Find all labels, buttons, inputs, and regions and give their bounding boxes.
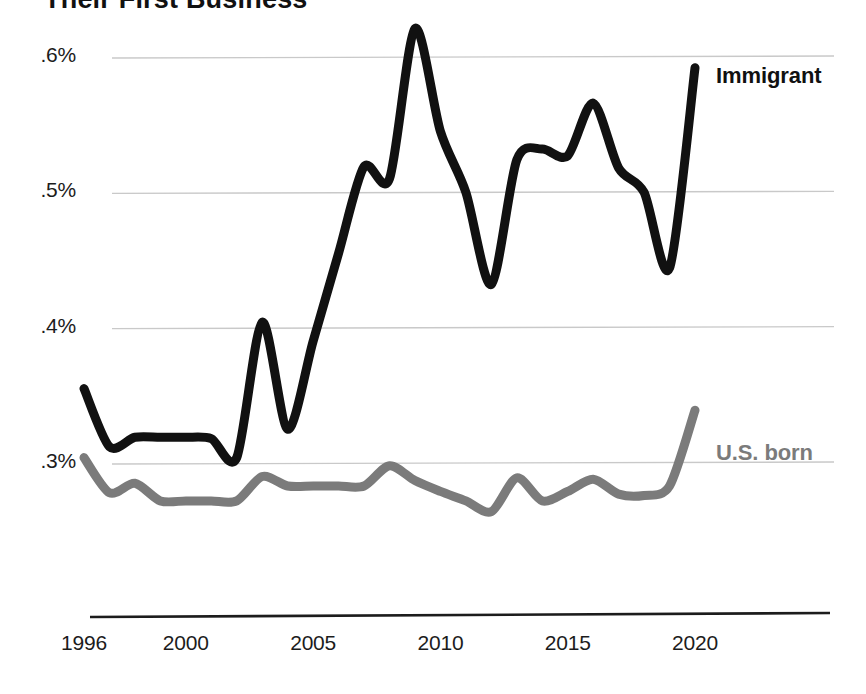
chart-plot-area — [0, 0, 866, 694]
y-axis-tick-label: .4% — [14, 314, 76, 338]
x-axis-tick-label: 2000 — [163, 631, 209, 655]
series-label-immigrant: Immigrant — [716, 63, 821, 89]
gridline — [112, 56, 834, 58]
line-series-immigrant — [84, 28, 695, 462]
x-axis-tick-label: 2010 — [417, 631, 463, 655]
y-axis-tick-label: .6% — [14, 43, 76, 67]
series-label-us-born: U.S. born — [716, 440, 813, 466]
y-axis-tick-label: .3% — [14, 449, 76, 473]
x-axis-tick-label: 2005 — [290, 631, 336, 655]
x-axis-tick-label: 1996 — [61, 631, 107, 655]
y-axis-tick-label: .5% — [14, 178, 76, 202]
x-axis-tick-label: 2015 — [545, 631, 591, 655]
gridline — [112, 327, 834, 329]
gridline — [112, 191, 834, 193]
chart-container: Their First Business .6%.5%.4%.3% 199620… — [0, 0, 866, 694]
x-axis-tick-label: 2020 — [672, 631, 718, 655]
gridlines-group — [112, 56, 834, 464]
line-series-us-born — [84, 410, 695, 512]
x-axis-line — [90, 613, 830, 617]
